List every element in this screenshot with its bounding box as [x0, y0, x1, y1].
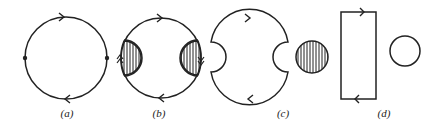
panel-label-b: (b)	[153, 107, 166, 119]
hatched-disc	[296, 41, 328, 73]
notched-loop	[211, 9, 288, 105]
panel-d	[341, 8, 420, 103]
vertex-dot-left	[23, 56, 27, 60]
rectangular-loop	[341, 12, 376, 99]
panel-label-d: (d)	[378, 107, 391, 119]
vertex-dot-right	[105, 56, 109, 60]
panel-a	[23, 13, 109, 103]
panel-label-c: (c)	[277, 107, 289, 119]
empty-circle	[390, 36, 420, 66]
panel-b	[117, 14, 204, 102]
arrow-left-icon	[248, 95, 253, 103]
panel-label-a: (a)	[61, 107, 74, 119]
arrow-right-icon	[245, 14, 250, 22]
panel-c	[211, 9, 328, 105]
loop-circle	[25, 17, 107, 99]
